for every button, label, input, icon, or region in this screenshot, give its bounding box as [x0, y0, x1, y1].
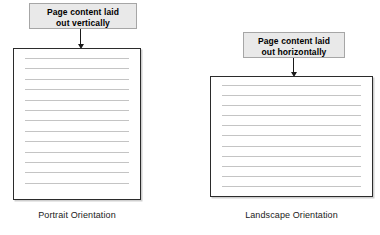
landscape-callout-box: Page content laid out horizontally [243, 32, 345, 58]
content-line [25, 89, 129, 90]
content-line [25, 58, 129, 59]
content-line [222, 95, 361, 96]
content-line [222, 125, 361, 126]
portrait-arrow-down-icon [77, 29, 84, 49]
content-line [222, 105, 361, 106]
landscape-caption: Landscape Orientation [210, 210, 373, 220]
content-line [222, 156, 361, 157]
content-line [25, 100, 129, 101]
portrait-arrow-shaft [80, 29, 81, 45]
content-line [222, 146, 361, 147]
portrait-content-lines [14, 49, 140, 199]
portrait-callout-line-1: Page content laid [34, 7, 132, 18]
content-line [25, 110, 129, 111]
orientation-diagram: Page content laid out vertically Portrai… [0, 0, 380, 235]
content-line [25, 162, 129, 163]
content-line [25, 120, 129, 121]
content-line [25, 79, 129, 80]
content-line [222, 135, 361, 136]
landscape-page-rectangle [210, 76, 373, 197]
landscape-callout-line-1: Page content laid [248, 36, 340, 47]
content-line [25, 183, 129, 184]
content-line [222, 166, 361, 167]
content-line [25, 172, 129, 173]
landscape-callout-line-2: out horizontally [248, 47, 340, 58]
landscape-content-lines [211, 77, 372, 196]
content-line [222, 115, 361, 116]
content-line [25, 131, 129, 132]
content-line [222, 186, 361, 187]
portrait-callout-line-2: out vertically [34, 18, 132, 29]
content-line [222, 176, 361, 177]
landscape-arrow-down-icon [290, 58, 297, 77]
portrait-caption: Portrait Orientation [13, 210, 141, 220]
content-line [25, 152, 129, 153]
portrait-callout-box: Page content laid out vertically [29, 3, 137, 29]
landscape-arrow-shaft [293, 58, 294, 73]
portrait-page-rectangle [13, 48, 141, 200]
content-line [25, 141, 129, 142]
content-line [25, 68, 129, 69]
content-line [222, 85, 361, 86]
